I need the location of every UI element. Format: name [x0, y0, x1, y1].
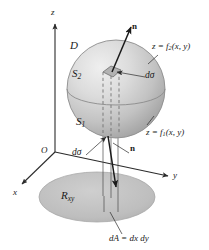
leader-normal-bottom — [113, 143, 129, 153]
figure-canvas: z x y O D S2 S1 Rxy n n dσ dσ z = f2(x, … — [0, 0, 209, 250]
projection-region-letter: R — [61, 189, 68, 201]
region-d-label: D — [70, 40, 78, 51]
area-element-label: dA = dx dy — [109, 234, 149, 243]
upper-surface-label: S2 — [72, 68, 81, 80]
upper-eq-rhs: (x, y) — [172, 41, 190, 51]
dsigma-top-label: dσ — [145, 71, 154, 81]
z-axis-label: z — [51, 8, 55, 17]
y-axis-label: y — [173, 171, 177, 180]
lower-eq-rhs: (x, y) — [166, 127, 184, 137]
normal-bottom-label: n — [130, 144, 135, 153]
projection-region-label: Rxy — [61, 190, 74, 202]
lower-surface-label: S1 — [76, 116, 85, 128]
x-axis-label: x — [13, 188, 17, 197]
projection-disk — [39, 172, 155, 222]
dsigma-bottom-label: dσ — [72, 148, 81, 158]
lower-eq-lhs: z = f — [146, 127, 163, 137]
lower-surface-equation: z = f1(x, y) — [146, 128, 184, 137]
normal-top-label: n — [132, 22, 137, 31]
origin-label: O — [41, 146, 48, 155]
diagram-svg — [0, 0, 209, 250]
projection-region-subscript: xy — [68, 194, 75, 203]
upper-eq-lhs: z = f — [152, 41, 169, 51]
upper-surface-equation: z = f2(x, y) — [152, 42, 190, 51]
x-axis — [22, 152, 55, 184]
upper-surface-subscript: 2 — [78, 72, 82, 81]
lower-surface-subscript: 1 — [82, 120, 86, 129]
